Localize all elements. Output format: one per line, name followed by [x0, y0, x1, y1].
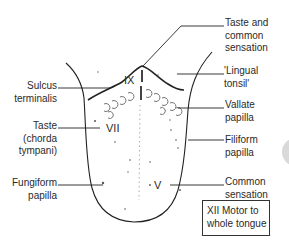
label-line: Filiform	[225, 134, 258, 147]
label-line: sensation	[225, 42, 268, 55]
label-line: Vallate	[225, 99, 255, 112]
label-line: papilla	[225, 112, 255, 125]
label-line: tympani)	[19, 145, 57, 158]
motor-innervation-box: XII Motor to whole tongue	[202, 200, 270, 236]
nerve-ix-label: IX	[124, 74, 134, 86]
median-groove-dotted	[139, 105, 140, 200]
label-filiform-papilla: Filiform papilla	[225, 134, 258, 159]
box-line: XII Motor to	[207, 204, 269, 217]
label-sulcus-terminalis: Sulcus terminalis	[14, 80, 57, 105]
label-line: Taste and	[225, 17, 268, 30]
tongue-outline	[66, 52, 212, 222]
label-line: (chorda	[19, 133, 57, 146]
label-line: Taste	[19, 120, 57, 133]
leader-taste-common	[143, 26, 224, 66]
leader-lines	[58, 26, 224, 185]
label-line: tonsil'	[224, 78, 258, 91]
label-line: 'Lingual	[224, 65, 258, 78]
box-line: whole tongue	[207, 217, 269, 230]
tongue-diagram: Taste and common sensation 'Lingual tons…	[0, 0, 289, 248]
nerve-v-label: V	[154, 179, 161, 191]
label-fungiform-papilla: Fungiform papilla	[12, 177, 57, 202]
nerve-vii-label: VII	[106, 122, 119, 134]
label-line: papilla	[12, 190, 57, 203]
papillae-dots	[94, 71, 181, 210]
label-taste-common-sensation: Taste and common sensation	[225, 17, 268, 55]
label-line: Fungiform	[12, 177, 57, 190]
label-line: Common	[225, 176, 268, 189]
label-common-sensation: Common sensation	[225, 176, 268, 201]
edge-artifact	[282, 138, 289, 166]
label-lingual-tonsil: 'Lingual tonsil'	[224, 65, 258, 90]
sulcus-terminalis	[88, 66, 184, 100]
label-line: terminalis	[14, 93, 57, 106]
label-line: common	[225, 30, 268, 43]
vallate-papillae	[104, 90, 182, 119]
label-line: Sulcus	[14, 80, 57, 93]
label-line: papilla	[225, 147, 258, 160]
label-taste-chorda-tympani: Taste (chorda tympani)	[19, 120, 57, 158]
median-groove	[141, 70, 142, 100]
label-vallate-papilla: Vallate papilla	[225, 99, 255, 124]
